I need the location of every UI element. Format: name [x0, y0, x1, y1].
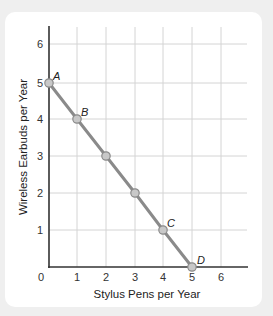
grid-horizontal [49, 44, 247, 230]
point-d-label: D [197, 254, 205, 266]
point-b-marker [73, 115, 81, 123]
ppf-chart: 6 5 4 3 2 1 0 1 2 3 4 5 6 Stylus Pens pe… [0, 0, 273, 316]
point-c-label: C [167, 217, 175, 229]
y-tick-3: 3 [37, 150, 43, 162]
y-axis-title: Wireless Earbuds per Year [17, 79, 29, 215]
origin-label: 0 [38, 271, 44, 283]
ppf-line [49, 83, 192, 267]
x-tick-2: 2 [103, 271, 109, 283]
point-2-3-marker [102, 152, 110, 160]
point-a-label: A [52, 70, 60, 82]
y-tick-2: 2 [37, 187, 43, 199]
point-d-marker [188, 263, 196, 271]
y-tick-1: 1 [37, 224, 43, 236]
x-axis-title: Stylus Pens per Year [94, 288, 201, 300]
x-tick-5: 5 [189, 271, 195, 283]
x-tick-4: 4 [160, 271, 166, 283]
point-c-marker [159, 226, 167, 234]
point-a-marker [45, 79, 53, 87]
point-3-2-marker [131, 189, 139, 197]
x-tick-6: 6 [218, 271, 224, 283]
x-tick-3: 3 [132, 271, 138, 283]
x-tick-1: 1 [74, 271, 80, 283]
point-b-label: B [81, 106, 88, 118]
y-tick-4: 4 [37, 113, 43, 125]
x-tick-labels: 0 1 2 3 4 5 6 [38, 271, 224, 283]
y-tick-labels: 6 5 4 3 2 1 [37, 38, 43, 236]
y-tick-5: 5 [37, 77, 43, 89]
y-tick-6: 6 [37, 38, 43, 50]
